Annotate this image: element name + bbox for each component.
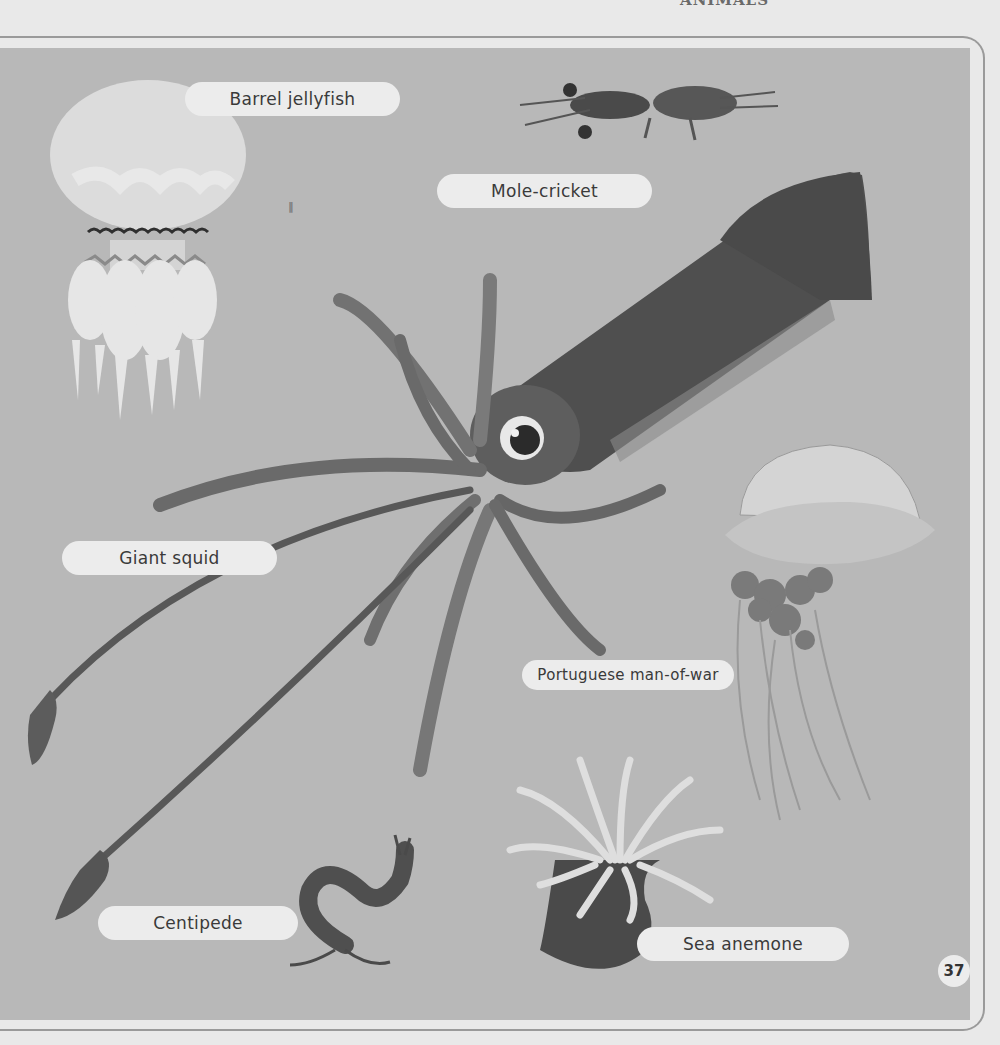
tuft-decoration: ‖ bbox=[288, 200, 293, 213]
illustration-panel: ‖ Barrel jellyfish Mole-cricket Giant sq… bbox=[0, 48, 970, 1020]
label-portuguese-man-of-war: Portuguese man-of-war bbox=[522, 660, 734, 690]
header-clipped-text: ANIMALS bbox=[680, 0, 769, 9]
label-sea-anemone: Sea anemone bbox=[637, 927, 849, 961]
portuguese-man-of-war-illustration bbox=[725, 445, 935, 820]
barrel-jellyfish-illustration bbox=[50, 80, 246, 420]
label-centipede: Centipede bbox=[98, 906, 298, 940]
mole-cricket-illustration bbox=[520, 83, 778, 140]
page-number-badge: 37 bbox=[938, 955, 970, 987]
label-giant-squid: Giant squid bbox=[62, 541, 277, 575]
label-barrel-jellyfish: Barrel jellyfish bbox=[185, 82, 400, 116]
centipede-illustration bbox=[290, 835, 410, 965]
label-mole-cricket: Mole-cricket bbox=[437, 174, 652, 208]
